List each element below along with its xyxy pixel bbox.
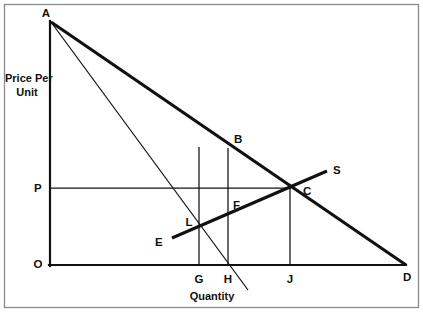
point-label-j: J [287,273,294,285]
point-label-e: E [155,236,163,248]
marginal-revenue-curve [51,22,248,290]
point-label-l: L [185,216,192,228]
point-label-c: C [303,185,312,197]
y-axis-label-line2: Unit [16,86,38,98]
point-label-s: S [333,164,341,176]
supply-curve-es [172,171,327,238]
point-label-f: F [233,199,240,211]
figure-container: A B C D E F G H J L S O P Price Per Unit… [0,0,423,312]
x-axis-label: Quantity [190,290,235,302]
point-label-a: A [42,7,51,19]
point-label-b: B [234,133,243,145]
economics-diagram: A B C D E F G H J L S O P Price Per Unit… [0,0,423,312]
price-level-label: P [34,182,42,194]
point-label-g: G [194,273,203,285]
point-label-h: H [224,273,233,285]
point-label-d: D [403,271,412,283]
figure-border [5,5,419,308]
origin-label: O [33,258,42,270]
y-axis-label-line1: Price Per [5,72,53,84]
